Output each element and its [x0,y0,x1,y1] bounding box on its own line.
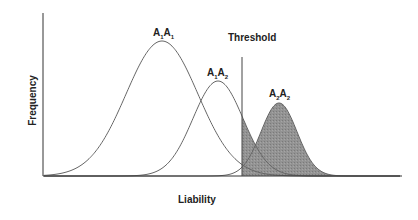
curve-a1a1 [44,41,400,176]
liability-threshold-chart [0,0,418,220]
x-axis-label: Liability [178,194,216,205]
label-a2a2: A2A2 [269,88,290,101]
shaded-region [242,103,340,176]
label-a1a1: A1A1 [153,27,174,40]
curve-a1a2 [44,81,400,176]
y-axis-label: Frequency [27,71,38,131]
shaded-area [242,103,340,176]
curve-a2a2 [44,103,400,176]
threshold-label: Threshold [228,32,276,43]
label-a1a2: A1A2 [207,67,228,80]
curves [44,41,400,176]
